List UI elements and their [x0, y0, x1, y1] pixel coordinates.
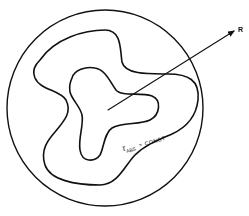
- contour-label: τ ABS = CONST: [121, 132, 167, 155]
- outer-circle: [7, 10, 203, 206]
- arrow-label-r: R: [238, 26, 243, 33]
- abs-subscript: ABS: [125, 145, 137, 154]
- radial-arrow: [108, 31, 234, 110]
- diagram-canvas: R τ ABS = CONST: [0, 0, 249, 216]
- const-relation: = CONST: [138, 135, 166, 148]
- outer-contour: [34, 30, 198, 185]
